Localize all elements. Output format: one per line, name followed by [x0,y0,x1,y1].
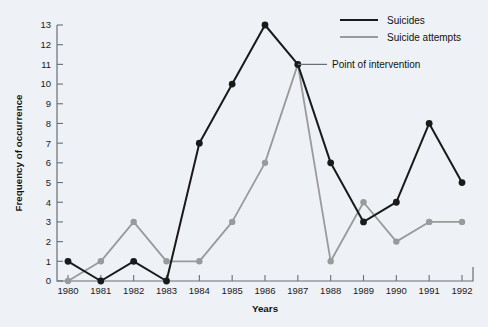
y-tick-label: 3 [46,216,51,227]
data-point [360,199,366,205]
y-tick-label: 13 [40,19,51,30]
y-axis-title: Frequency of occurrence [13,94,24,212]
legend-label: Suicide attempts [387,32,461,43]
data-point [97,278,104,285]
x-tick-label: 1985 [222,285,243,296]
y-tick-label: 5 [46,177,51,188]
data-point [393,199,400,206]
x-tick-label: 1981 [90,285,111,296]
y-tick-label: 10 [40,78,51,89]
x-tick-label: 1986 [254,285,275,296]
data-point [98,258,104,264]
data-point [229,81,236,88]
x-tick-label: 1990 [386,285,407,296]
x-tick-label: 1982 [123,285,144,296]
data-point [65,278,71,284]
x-tick-label: 1991 [419,285,440,296]
data-point [130,258,137,265]
line-chart: 012345678910111213 198019811982198319841… [0,0,488,327]
y-tick-label: 7 [46,138,51,149]
data-point [327,258,333,264]
data-point [459,179,466,186]
y-tick-label: 2 [46,236,51,247]
data-point [426,219,432,225]
data-point [130,219,136,225]
data-point [393,238,399,244]
y-tick-label: 4 [46,197,51,208]
legend-label: Suicides [387,15,425,26]
data-point [229,219,235,225]
data-point [196,258,202,264]
x-tick-label: 1983 [156,285,177,296]
x-tick-label: 1987 [287,285,308,296]
y-tick-label: 12 [40,39,51,50]
data-point [163,278,170,285]
x-tick-label: 1989 [353,285,374,296]
x-tick-label: 1988 [320,285,341,296]
x-tick-label: 1984 [189,285,210,296]
y-tick-label: 6 [46,157,51,168]
y-tick-label: 8 [46,118,51,129]
x-tick-label: 1992 [451,285,472,296]
y-tick-label: 11 [41,59,51,70]
data-point [459,219,465,225]
data-point [426,120,433,127]
y-tick-label: 1 [46,256,51,267]
y-tick-label: 0 [46,275,51,286]
data-point [262,160,268,166]
data-point [262,22,269,29]
x-tick-label: 1980 [57,285,78,296]
annotation-label: Point of intervention [332,59,420,70]
data-point [163,258,169,264]
data-point [196,140,203,147]
x-axis-title: Years [252,303,279,314]
data-point [65,258,72,265]
chart-container: 012345678910111213 198019811982198319841… [0,0,488,327]
y-tick-label: 9 [46,98,51,109]
data-point [360,219,367,226]
data-point [327,159,334,166]
